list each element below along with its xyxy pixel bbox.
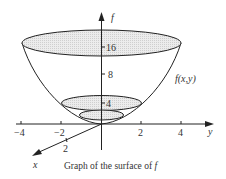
f-axis-arrow-icon — [99, 12, 105, 21]
x-tick-2 — [66, 138, 67, 142]
f-tick-label-16: 16 — [106, 42, 116, 53]
x-tick-label-2: 2 — [63, 143, 68, 154]
surface-label: f(x,y) — [175, 73, 196, 85]
x-axis-label: x — [32, 159, 38, 170]
y-tick-label-neg2: −2 — [54, 127, 65, 138]
y-axis-label: y — [207, 126, 213, 137]
paraboloid-diagram: f 16 8 4 y −4 −2 2 4 x 2 f(x,y) Graph of… — [0, 0, 226, 179]
x-axis-arrow-icon — [32, 149, 42, 156]
y-tick-label-4: 4 — [178, 127, 183, 138]
y-tick-label-2: 2 — [138, 127, 143, 138]
f-axis-label: f — [111, 12, 115, 23]
x-axis — [37, 124, 102, 153]
f-tick-label-8: 8 — [108, 69, 113, 80]
f-tick-label-4: 4 — [106, 98, 111, 109]
y-tick-label-neg4: −4 — [14, 127, 25, 138]
caption: Graph of the surface of f — [64, 161, 158, 171]
